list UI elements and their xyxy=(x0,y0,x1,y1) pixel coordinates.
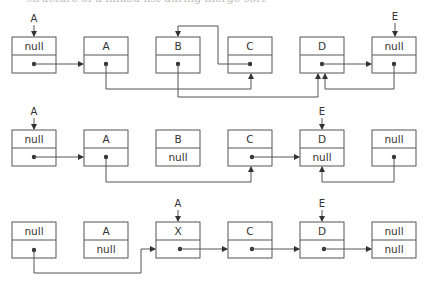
node-value: null xyxy=(24,40,43,52)
node-value: A xyxy=(102,225,110,237)
node-b: B null xyxy=(156,130,200,166)
node-next-null: null xyxy=(312,151,331,163)
pointer-label-a: A xyxy=(31,106,38,117)
linked-list-diagram: A E null A B C xyxy=(0,0,430,283)
node-value: C xyxy=(246,225,253,237)
row-2: A E null A B null C xyxy=(12,106,416,182)
node-value: null xyxy=(384,225,403,237)
node-value: null xyxy=(384,133,403,145)
node-value: A xyxy=(102,40,110,52)
pointer-label-e: E xyxy=(319,106,325,117)
node-c: C xyxy=(228,222,272,258)
node-x: X xyxy=(156,222,200,258)
pointer-label-e: E xyxy=(319,198,325,209)
row-1: A E null A B C xyxy=(12,11,416,97)
pointer-label-a: A xyxy=(175,198,182,209)
node-value: D xyxy=(318,40,326,52)
node-value: null xyxy=(24,225,43,237)
node-d: D xyxy=(300,37,344,73)
node-next-null: null xyxy=(168,151,187,163)
node-null-head: null xyxy=(12,37,56,73)
node-d: D null xyxy=(300,130,344,166)
node-null-tail: null null xyxy=(372,222,416,258)
node-value: B xyxy=(174,133,181,145)
node-value: B xyxy=(174,40,181,52)
node-next-null: null xyxy=(96,243,115,255)
node-next-null: null xyxy=(384,243,403,255)
node-value: null xyxy=(384,40,403,52)
pointer-label-e: E xyxy=(392,11,398,22)
node-d: D xyxy=(300,222,344,258)
node-value: null xyxy=(24,133,43,145)
node-value: C xyxy=(246,40,253,52)
node-a: A null xyxy=(84,222,128,258)
node-value: X xyxy=(174,225,181,237)
pointer-label-a: A xyxy=(31,13,38,24)
node-value: C xyxy=(246,133,253,145)
node-value: A xyxy=(102,133,110,145)
row-3: A E null A null X C xyxy=(12,198,416,273)
node-c: C xyxy=(228,130,272,166)
node-c: C xyxy=(228,37,272,73)
node-null-head: null xyxy=(12,130,56,166)
node-value: D xyxy=(318,225,326,237)
node-value: D xyxy=(318,133,326,145)
